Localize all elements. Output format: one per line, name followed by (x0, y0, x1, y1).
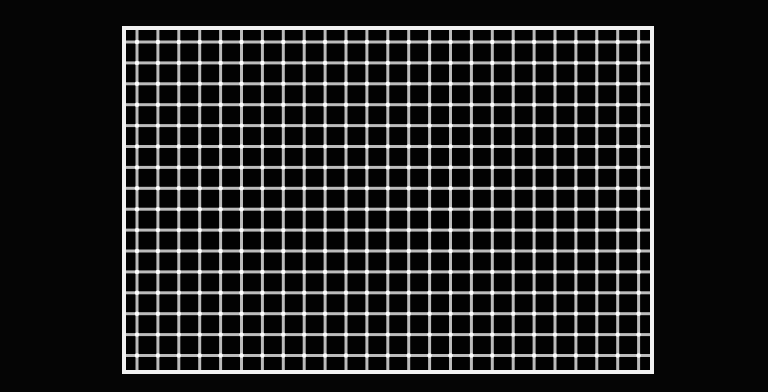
grid-intersection-dot (616, 123, 620, 127)
grid-intersection-dot (490, 291, 494, 295)
grid-intersection-dot (511, 270, 515, 274)
grid-intersection-dot (448, 165, 452, 169)
grid-intersection-dot (135, 186, 139, 190)
grid-intersection-dot (595, 228, 599, 232)
grid-intersection-dot (239, 228, 243, 232)
grid-intersection-dot (532, 103, 536, 107)
grid-intersection-dot (448, 312, 452, 316)
grid-line-vertical (407, 30, 410, 370)
grid-intersection-dot (260, 249, 264, 253)
grid-intersection-dot (218, 144, 222, 148)
grid-intersection-dot (386, 353, 390, 357)
grid-intersection-dot (490, 332, 494, 336)
grid-intersection-dot (365, 40, 369, 44)
grid-intersection-dot (386, 123, 390, 127)
grid-intersection-dot (239, 40, 243, 44)
grid-intersection-dot (490, 123, 494, 127)
grid-intersection-dot (636, 103, 640, 107)
grid-intersection-dot (135, 61, 139, 65)
grid-intersection-dot (135, 249, 139, 253)
grid-line-vertical (595, 30, 598, 370)
grid-intersection-dot (532, 61, 536, 65)
grid-intersection-dot (218, 40, 222, 44)
grid-intersection-dot (135, 353, 139, 357)
grid-intersection-dot (490, 186, 494, 190)
grid-intersection-dot (239, 207, 243, 211)
grid-intersection-dot (281, 270, 285, 274)
grid-intersection-dot (281, 144, 285, 148)
grid-intersection-dot (427, 332, 431, 336)
grid-intersection-dot (302, 165, 306, 169)
grid-intersection-dot (344, 332, 348, 336)
canvas (0, 0, 768, 392)
grid-intersection-dot (427, 270, 431, 274)
grid-intersection-dot (260, 270, 264, 274)
grid-intersection-dot (616, 270, 620, 274)
grid-intersection-dot (490, 82, 494, 86)
grid-intersection-dot (490, 165, 494, 169)
grid-intersection-dot (302, 123, 306, 127)
grid-intersection-dot (490, 270, 494, 274)
grid-intersection-dot (574, 332, 578, 336)
grid-intersection-dot (490, 144, 494, 148)
grid-intersection-dot (260, 144, 264, 148)
grid-intersection-dot (386, 312, 390, 316)
grid-intersection-dot (595, 249, 599, 253)
grid-intersection-dot (469, 312, 473, 316)
grid-intersection-dot (218, 186, 222, 190)
grid-intersection-dot (239, 103, 243, 107)
grid-intersection-dot (302, 82, 306, 86)
grid-intersection-dot (156, 291, 160, 295)
grid-intersection-dot (574, 249, 578, 253)
grid-intersection-dot (490, 312, 494, 316)
grid-intersection-dot (574, 82, 578, 86)
grid-line-vertical (156, 30, 159, 370)
grid-intersection-dot (532, 82, 536, 86)
grid-intersection-dot (281, 291, 285, 295)
grid-intersection-dot (198, 103, 202, 107)
grid-intersection-dot (636, 61, 640, 65)
grid-intersection-dot (218, 165, 222, 169)
grid-intersection-dot (344, 291, 348, 295)
grid-intersection-dot (553, 82, 557, 86)
grid-intersection-dot (407, 186, 411, 190)
grid-intersection-dot (198, 186, 202, 190)
grid-intersection-dot (427, 291, 431, 295)
grid-intersection-dot (302, 40, 306, 44)
grid-intersection-dot (427, 312, 431, 316)
grid-intersection-dot (239, 312, 243, 316)
grid-intersection-dot (302, 103, 306, 107)
grid-intersection-dot (407, 270, 411, 274)
grid-intersection-dot (156, 82, 160, 86)
grid-intersection-dot (323, 270, 327, 274)
grid-intersection-dot (469, 186, 473, 190)
grid-intersection-dot (469, 228, 473, 232)
grid-intersection-dot (469, 144, 473, 148)
grid-frame (122, 26, 654, 374)
grid-intersection-dot (323, 291, 327, 295)
grid-intersection-dot (469, 270, 473, 274)
grid-intersection-dot (532, 144, 536, 148)
grid-intersection-dot (574, 144, 578, 148)
grid-intersection-dot (177, 207, 181, 211)
grid-intersection-dot (574, 291, 578, 295)
grid-intersection-dot (469, 249, 473, 253)
grid-intersection-dot (511, 249, 515, 253)
grid-intersection-dot (323, 103, 327, 107)
grid-intersection-dot (323, 353, 327, 357)
grid-intersection-dot (156, 165, 160, 169)
grid-intersection-dot (469, 123, 473, 127)
grid-intersection-dot (616, 291, 620, 295)
grid-intersection-dot (281, 332, 285, 336)
grid-intersection-dot (239, 123, 243, 127)
grid-intersection-dot (156, 144, 160, 148)
grid-intersection-dot (636, 270, 640, 274)
grid-intersection-dot (427, 353, 431, 357)
grid-intersection-dot (553, 103, 557, 107)
grid-intersection-dot (553, 353, 557, 357)
grid-line-vertical (136, 30, 139, 370)
grid-intersection-dot (490, 228, 494, 232)
grid-line-vertical (219, 30, 222, 370)
grid-line-vertical (198, 30, 201, 370)
grid-intersection-dot (239, 249, 243, 253)
